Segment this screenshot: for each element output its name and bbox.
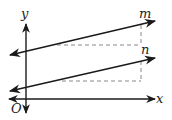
coordinate-diagram: y x O m n	[0, 0, 172, 120]
y-axis-label: y	[20, 6, 29, 21]
x-axis-label: x	[156, 91, 164, 106]
line-n	[10, 58, 155, 91]
line-m-label: m	[139, 6, 151, 21]
line-n-label: n	[141, 42, 149, 57]
origin-label: O	[11, 101, 22, 116]
line-m	[10, 21, 155, 55]
